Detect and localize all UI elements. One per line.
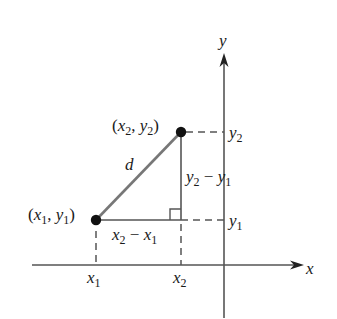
point-2-label: (x2, y2) (112, 116, 159, 138)
x-axis-label: x (305, 259, 314, 278)
hypotenuse-label: d (125, 155, 134, 174)
point-1-label: (x1, y1) (28, 205, 75, 227)
y1-tick-label: y1 (227, 211, 243, 233)
x2-tick-label: x2 (172, 268, 187, 290)
right-triangle (96, 132, 181, 220)
y2-tick-label: y2 (227, 123, 243, 145)
point-2 (176, 127, 186, 137)
y-axis-label: y (217, 31, 227, 50)
point-1 (91, 215, 101, 225)
x1-tick-label: x1 (86, 268, 101, 290)
hypotenuse-d (96, 132, 181, 220)
distance-diagram: y x (x2, y2) (x1, y1) d y2 − y1 x2 − x1 … (0, 0, 337, 319)
axes (32, 53, 304, 318)
horizontal-leg-label: x2 − x1 (111, 225, 157, 247)
right-angle-marker-icon (170, 209, 181, 220)
vertical-leg-label: y2 − y1 (184, 167, 231, 189)
